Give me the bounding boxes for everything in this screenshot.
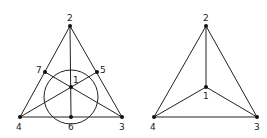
node-label-7: 7 [36,65,42,75]
node-label-1: 1 [203,91,209,101]
edge-4-1 [154,87,206,117]
node-label-6: 6 [68,122,74,132]
node-6 [69,115,73,119]
node-4 [152,115,156,119]
node-label-2: 2 [67,13,73,23]
node-label-5: 5 [100,65,106,75]
node-2 [204,24,208,28]
node-label-4: 4 [150,122,156,132]
node-7 [43,70,47,74]
node-1 [69,85,73,89]
edge-4-5 [20,72,97,117]
node-label-3: 3 [119,122,125,132]
node-label-2: 2 [203,13,209,23]
node-label-1: 1 [73,75,79,85]
edge-2-6 [70,26,71,117]
node-5 [95,70,99,74]
diagram-canvas: 1234567 1234 [0,0,267,138]
node-3 [255,115,259,119]
node-4 [18,115,22,119]
node-label-4: 4 [16,122,22,132]
edge-3-1 [206,87,257,117]
tetrahedron-graph-diagram: 1234 [150,13,260,132]
edge-2-3 [206,26,257,117]
node-2 [68,24,72,28]
fano-plane-diagram: 1234567 [16,13,125,132]
node-3 [120,115,124,119]
edge-2-4 [154,26,206,117]
edge-3-7 [45,72,122,117]
node-label-3: 3 [254,122,260,132]
node-1 [204,85,208,89]
